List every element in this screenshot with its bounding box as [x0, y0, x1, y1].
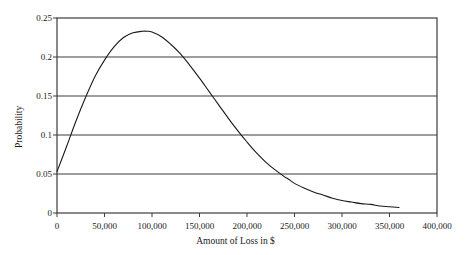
- y-tick-label: 0.05: [14, 170, 52, 179]
- y-tick-label: 0.25: [14, 14, 52, 23]
- x-axis-title: Amount of Loss in $: [0, 236, 471, 246]
- x-tick-label: 250,000: [280, 222, 309, 231]
- y-tick-label: 0.15: [14, 92, 52, 101]
- x-tick-label: 200,000: [232, 222, 261, 231]
- chart-canvas: [0, 0, 471, 255]
- x-tick-marks-group: [57, 213, 437, 217]
- y-tick-label: 0.2: [14, 53, 52, 62]
- density-curve: [57, 31, 399, 207]
- x-tick-label: 0: [55, 222, 60, 231]
- x-tick-label: 100,000: [137, 222, 166, 231]
- x-tick-label: 350,000: [375, 222, 404, 231]
- x-tick-label: 150,000: [185, 222, 214, 231]
- x-tick-label: 300,000: [327, 222, 356, 231]
- gridlines-group: [57, 57, 437, 174]
- probability-loss-chart: 00.050.10.150.20.25 050,000100,000150,00…: [0, 0, 471, 255]
- y-tick-label: 0: [14, 209, 52, 218]
- x-tick-label: 50,000: [92, 222, 117, 231]
- y-axis-title: Probability: [14, 106, 24, 148]
- x-tick-label: 400,000: [422, 222, 451, 231]
